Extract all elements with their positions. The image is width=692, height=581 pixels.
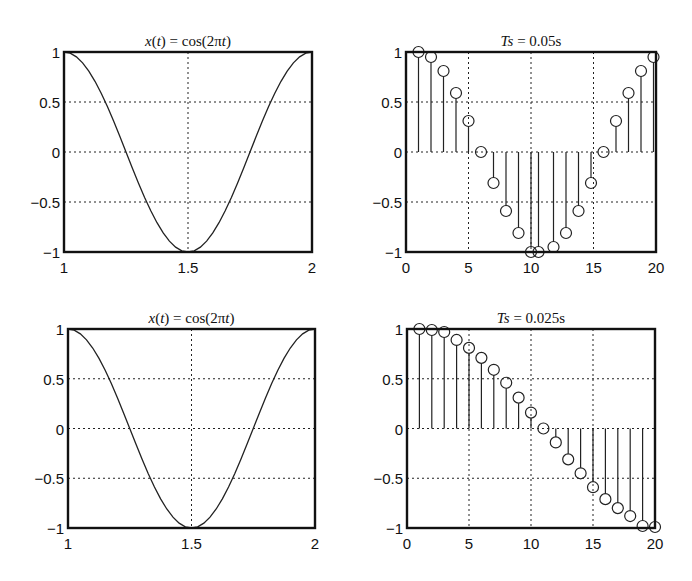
- stem-marker: [611, 116, 622, 127]
- y-tick-label: 1: [394, 44, 402, 61]
- subplot-top-right: Ts = 0.05s0510152010.50−0.5−1: [372, 33, 664, 276]
- stem-marker: [464, 342, 475, 353]
- x-tick-label: 20: [647, 535, 664, 552]
- y-tick-label: 1: [52, 44, 60, 61]
- y-tick-label: 1: [395, 321, 403, 338]
- x-tick-label: 1.5: [181, 535, 202, 552]
- y-tick-label: 0: [395, 421, 403, 438]
- stem-marker: [513, 392, 524, 403]
- x-tick-label: 1.5: [178, 259, 199, 276]
- subplot-bottom-left: x(t) = cos(2πt)11.5210.50−0.5−1: [34, 310, 319, 552]
- y-tick-label: −1: [43, 244, 60, 261]
- line-series: [68, 329, 315, 528]
- y-tick-label: 0: [56, 421, 64, 438]
- stem-marker: [600, 494, 611, 505]
- x-tick-label: 15: [585, 259, 602, 276]
- stem-marker: [586, 178, 597, 189]
- y-tick-label: −0.5: [30, 194, 60, 211]
- x-axis-ticks: 11.52: [60, 259, 316, 276]
- grid-lines: [64, 52, 312, 252]
- stem-marker: [573, 206, 584, 217]
- figure: x(t) = cos(2πt)11.5210.50−0.5−1 Ts = 0.0…: [0, 0, 692, 581]
- x-tick-label: 0: [403, 535, 411, 552]
- x-tick-label: 20: [648, 259, 665, 276]
- y-tick-label: −1: [47, 520, 64, 537]
- y-tick-label: −0.5: [373, 470, 403, 487]
- grid-lines: [68, 329, 315, 528]
- x-tick-label: 15: [585, 535, 602, 552]
- x-tick-label: 1: [64, 535, 72, 552]
- x-axis-ticks: 05101520: [402, 259, 665, 276]
- x-axis-ticks: 05101520: [403, 535, 664, 552]
- y-tick-label: 0: [52, 144, 60, 161]
- x-tick-label: 0: [402, 259, 410, 276]
- stem-marker: [501, 377, 512, 388]
- y-tick-label: 0.5: [382, 371, 403, 388]
- stem-marker: [501, 206, 512, 217]
- stem-marker: [488, 178, 499, 189]
- x-tick-label: 5: [465, 535, 473, 552]
- stem-marker: [623, 88, 634, 99]
- stem-marker: [625, 511, 636, 522]
- stem-marker: [588, 482, 599, 493]
- stem-marker: [438, 66, 449, 77]
- x-tick-label: 2: [311, 535, 319, 552]
- stem-marker: [598, 147, 609, 158]
- y-tick-label: 0: [394, 144, 402, 161]
- chart-title: x(t) = cos(2πt): [144, 33, 231, 50]
- y-tick-label: 0.5: [381, 94, 402, 111]
- stem-marker: [526, 407, 537, 418]
- subplot-bottom-right: Ts = 0.025s0510152010.50−0.5−1: [373, 310, 663, 552]
- stem-marker: [561, 228, 572, 239]
- stem-marker: [563, 454, 574, 465]
- y-tick-label: −1: [386, 520, 403, 537]
- stem-marker: [637, 521, 648, 532]
- y-axis-ticks: 10.50−0.5−1: [34, 321, 64, 537]
- stem-marker: [636, 66, 647, 77]
- y-tick-label: 1: [56, 321, 64, 338]
- stem-marker: [476, 352, 487, 363]
- y-tick-label: 0.5: [43, 371, 64, 388]
- subplot-top-left: x(t) = cos(2πt)11.5210.50−0.5−1: [30, 33, 316, 276]
- x-tick-label: 2: [308, 259, 316, 276]
- stem-marker: [451, 88, 462, 99]
- stem-marker: [488, 364, 499, 375]
- stem-marker: [612, 503, 623, 514]
- x-tick-label: 5: [464, 259, 472, 276]
- y-axis-ticks: 10.50−0.5−1: [30, 44, 60, 261]
- stem-marker: [451, 334, 462, 345]
- stem-marker: [575, 468, 586, 479]
- y-tick-label: −0.5: [34, 470, 64, 487]
- stem-marker: [463, 116, 474, 127]
- x-tick-label: 1: [60, 259, 68, 276]
- x-axis-ticks: 11.52: [64, 535, 319, 552]
- chart-title: Ts = 0.05s: [501, 33, 562, 49]
- y-axis-ticks: 10.50−0.5−1: [372, 44, 402, 261]
- stem-marker: [550, 437, 561, 448]
- stem-marker: [476, 147, 487, 158]
- x-tick-label: 10: [523, 259, 540, 276]
- stem-marker: [538, 423, 549, 434]
- y-tick-label: −1: [385, 244, 402, 261]
- stem-marker: [513, 228, 524, 239]
- y-tick-label: 0.5: [39, 94, 60, 111]
- y-axis-ticks: 10.50−0.5−1: [373, 321, 403, 537]
- chart-title: x(t) = cos(2πt): [147, 310, 234, 327]
- y-tick-label: −0.5: [372, 194, 402, 211]
- axes-frame: [68, 329, 315, 528]
- x-tick-label: 10: [523, 535, 540, 552]
- chart-title: Ts = 0.025s: [497, 310, 566, 326]
